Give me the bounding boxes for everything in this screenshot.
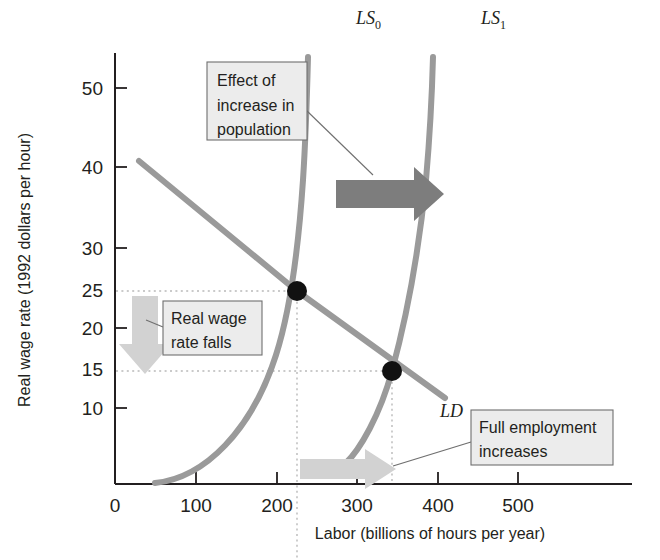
- x-tick-labels: 0 100 200 300 400 500: [110, 495, 534, 516]
- y-tick-label-50: 50: [82, 78, 103, 99]
- curve-ls1: [345, 57, 433, 464]
- labor-market-chart: 50 40 30 25 20 15 10 0 100 200 300 400 5…: [0, 0, 660, 560]
- x-tick-label-100: 100: [180, 495, 212, 516]
- y-tick-label-25: 25: [82, 280, 103, 301]
- x-tick-label-300: 300: [341, 495, 373, 516]
- effect-of-population-callout: Effect of increase in population: [207, 62, 373, 175]
- curve-label-ld: LD: [439, 401, 463, 421]
- y-tick-label-30: 30: [82, 238, 103, 259]
- y-tick-marks: [115, 88, 127, 408]
- curve-label-ls1-main: LS: [480, 8, 500, 28]
- chart-svg: 50 40 30 25 20 15 10 0 100 200 300 400 5…: [0, 0, 660, 560]
- curve-label-ls0-main: LS: [355, 8, 375, 28]
- x-tick-label-0: 0: [110, 495, 121, 516]
- y-tick-label-20: 20: [82, 318, 103, 339]
- equilibrium-dot-new: [382, 361, 402, 381]
- curve-label-ls0-sub: 0: [375, 18, 381, 32]
- x-tick-label-500: 500: [502, 495, 534, 516]
- population-callout-line3: population: [217, 121, 291, 138]
- x-axis-title: Labor (billions of hours per year): [315, 525, 545, 542]
- real-wage-falls-callout: Real wage rate falls: [146, 301, 262, 355]
- y-axis-title: Real wage rate (1992 dollars per hour): [16, 133, 33, 407]
- employment-callout-leader: [393, 442, 471, 466]
- y-tick-label-40: 40: [82, 157, 103, 178]
- wage-callout-line2: rate falls: [171, 334, 231, 351]
- employment-callout-line1: Full employment: [479, 419, 597, 436]
- employment-callout-line2: increases: [479, 443, 547, 460]
- y-tick-label-15: 15: [82, 359, 103, 380]
- equilibrium-dots: [287, 281, 402, 381]
- curve-label-ls1: LS1: [480, 8, 506, 32]
- x-tick-label-400: 400: [422, 495, 454, 516]
- curve-label-ls0: LS0: [355, 8, 381, 32]
- wage-callout-line1: Real wage: [171, 310, 247, 327]
- full-employment-callout: Full employment increases: [393, 410, 613, 466]
- y-tick-label-10: 10: [82, 398, 103, 419]
- equilibrium-dot-initial: [287, 281, 307, 301]
- population-callout-line1: Effect of: [217, 72, 276, 89]
- population-callout-leader: [306, 110, 373, 175]
- population-callout-line2: increase in: [217, 97, 294, 114]
- x-tick-label-200: 200: [261, 495, 293, 516]
- y-tick-labels: 50 40 30 25 20 15 10: [82, 78, 103, 419]
- curve-label-ls1-sub: 1: [500, 18, 506, 32]
